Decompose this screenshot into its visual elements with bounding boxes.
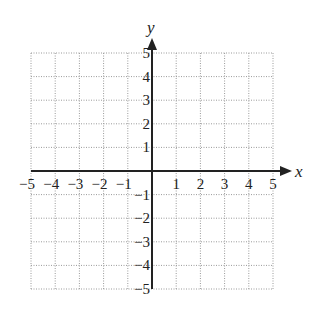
y-tick-label: 1 xyxy=(143,139,151,155)
y-axis-label: y xyxy=(145,18,155,37)
y-tick-label: 3 xyxy=(143,92,151,108)
y-tick-label: 2 xyxy=(143,116,151,132)
x-axis-label: x xyxy=(294,162,303,181)
x-tick-label: 5 xyxy=(269,176,277,192)
x-tick-label: 1 xyxy=(172,176,180,192)
y-tick-label: 5 xyxy=(143,45,151,61)
x-tick-label: 3 xyxy=(221,176,229,192)
y-tick-label: −1 xyxy=(134,187,150,203)
axes: x y xyxy=(31,18,303,289)
x-tick-label: −4 xyxy=(43,176,59,192)
y-tick-label: −4 xyxy=(134,257,150,273)
x-tick-label: −2 xyxy=(92,176,108,192)
y-tick-label: −3 xyxy=(134,234,150,250)
y-tick-label: 4 xyxy=(143,69,151,85)
x-tick-label: 2 xyxy=(197,176,205,192)
x-tick-label: 4 xyxy=(245,176,253,192)
y-tick-label: −2 xyxy=(134,210,150,226)
coordinate-plane: x y −5−4−3−2−112345 −5−4−3−2−112345 xyxy=(0,0,325,311)
x-tick-label: −1 xyxy=(116,176,132,192)
x-tick-label: −3 xyxy=(67,176,83,192)
x-axis-arrow-icon xyxy=(280,166,292,176)
y-tick-label: −5 xyxy=(134,281,150,297)
x-tick-label: −5 xyxy=(19,176,35,192)
